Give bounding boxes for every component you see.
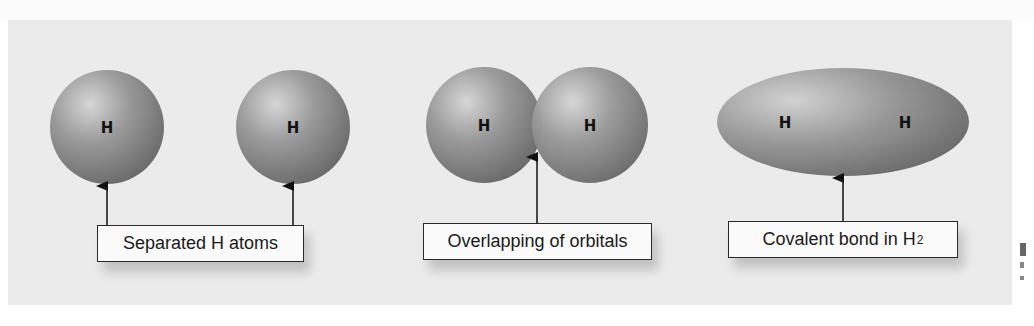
cropped-text-fragment bbox=[1020, 276, 1024, 280]
label-separated-h-atoms: Separated H atoms bbox=[97, 225, 304, 262]
h-atom-label-6: H bbox=[899, 114, 912, 132]
cropped-text-fragment bbox=[1020, 243, 1026, 256]
h-atom-label-3: H bbox=[478, 117, 491, 135]
h-atom-label-2: H bbox=[287, 119, 300, 137]
covalent-bond-group: H H bbox=[717, 68, 969, 221]
separated-atoms-group: H H bbox=[50, 70, 350, 225]
label-text: Covalent bond in H bbox=[763, 229, 916, 250]
label-text: Overlapping of orbitals bbox=[447, 231, 627, 252]
label-subscript: 2 bbox=[917, 233, 924, 247]
label-overlapping-orbitals: Overlapping of orbitals bbox=[423, 223, 652, 260]
h-atom-label-1: H bbox=[101, 119, 114, 137]
h2-bond-diagram: H H H H H H bbox=[0, 0, 1034, 326]
h-atom-label-5: H bbox=[779, 114, 792, 132]
cropped-text-fragment bbox=[1020, 262, 1024, 268]
h2-molecule-ellipse bbox=[717, 68, 969, 176]
label-covalent-bond: Covalent bond in H2 bbox=[728, 221, 958, 258]
h-atom-label-4: H bbox=[584, 117, 597, 135]
overlapping-orbitals-group: H H bbox=[426, 67, 648, 223]
label-text: Separated H atoms bbox=[123, 233, 278, 254]
